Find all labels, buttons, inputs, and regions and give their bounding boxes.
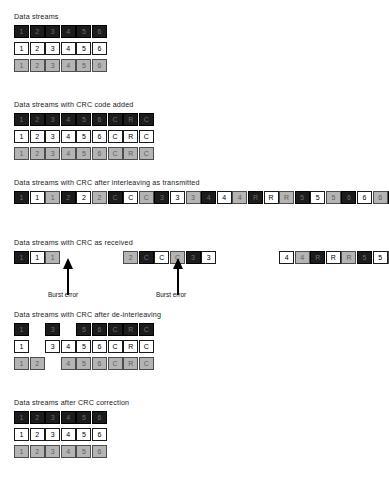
data-cell: 4 [201,191,216,204]
data-cell: 4 [61,411,76,424]
crc-cell: C [139,113,154,126]
crc-cell: C [139,130,154,143]
missing-cell [217,251,232,264]
crc-cell: R [248,191,263,204]
crc-cell: C [139,191,154,204]
data-cell: 4 [295,251,310,264]
data-cell: 1 [14,113,29,126]
data-cell: 4 [61,428,76,441]
missing-cell [61,323,76,336]
data-cell: 6 [357,191,372,204]
data-cell: 4 [61,113,76,126]
data-cell: 3 [45,59,60,72]
section-title: Data streams after CRC correction [14,398,129,407]
data-cell: 6 [92,428,107,441]
data-cell: 4 [61,340,76,353]
data-cell: 5 [76,130,91,143]
crc-cell: C [108,323,123,336]
data-cell: 6 [92,113,107,126]
data-cell: 5 [76,411,91,424]
data-cell: 1 [45,251,60,264]
data-cell: 5 [76,42,91,55]
data-cell: 3 [186,251,201,264]
data-cell: 2 [30,357,45,370]
data-cell: 1 [14,428,29,441]
data-cell: 4 [217,191,232,204]
stream-rows: 1356CRC 13456CRC 12456CRC [14,323,161,371]
section-crc-added: Data streams with CRC code added 1 2 3 4… [14,100,154,164]
missing-cell [30,323,45,336]
interleaved-row: 111222CCC333444RRR555666CCC [14,191,389,205]
table-row: 1356CRC [14,323,161,337]
data-cell: 6 [373,191,388,204]
crc-cell: R [123,357,138,370]
stream-rows: 1 2 3 4 5 6 1 2 3 4 5 6 1 2 3 4 5 6 [14,25,108,73]
missing-cell [232,251,247,264]
data-cell: 1 [14,340,29,353]
table-row: 1 2 3 4 5 6 [14,445,129,459]
data-cell: 1 [45,191,60,204]
data-cell: 6 [341,191,356,204]
data-cell: 2 [92,191,107,204]
table-row: 1 2 3 4 5 6 C R C [14,130,154,144]
data-cell: 2 [30,113,45,126]
crc-cell: C [108,191,123,204]
crc-cell: R [341,251,356,264]
data-cell: 5 [373,251,388,264]
data-cell: 4 [61,42,76,55]
data-cell: 2 [30,59,45,72]
data-cell: 1 [14,59,29,72]
data-cell: 1 [30,191,45,204]
data-cell: 5 [76,25,91,38]
data-cell: 3 [201,251,216,264]
missing-cell [108,251,123,264]
table-row: 1 2 3 4 5 6 C R C [14,147,154,161]
section-crc-corrected: Data streams after CRC correction 1 2 3 … [14,398,129,462]
crc-cell: R [279,191,294,204]
data-cell: 1 [14,445,29,458]
section-data-streams: Data streams 1 2 3 4 5 6 1 2 3 4 5 6 1 2 [14,12,108,76]
table-row: 1 2 3 4 5 6 C R C [14,113,154,127]
data-cell: 3 [186,191,201,204]
data-cell: 6 [92,357,107,370]
missing-cell [45,357,60,370]
data-cell: 5 [310,191,325,204]
table-row: 1 2 3 4 5 6 [14,59,108,73]
data-cell: 3 [45,340,60,353]
crc-cell: C [123,191,138,204]
section-de-interleaved: Data streams with CRC after de-interleav… [14,310,161,374]
crc-cell: R [123,147,138,160]
data-cell: 3 [45,113,60,126]
data-cell: 4 [232,191,247,204]
data-cell: 5 [76,340,91,353]
data-cell: 1 [14,147,29,160]
data-cell: 3 [154,191,169,204]
data-cell: 5 [357,251,372,264]
data-cell: 4 [279,251,294,264]
crc-cell: C [139,323,154,336]
table-row: 1 2 3 4 5 6 [14,411,129,425]
burst-error-label-1: Burst error [48,291,78,298]
data-cell: 5 [76,357,91,370]
data-cell: 6 [92,130,107,143]
data-cell: 1 [14,357,29,370]
crc-cell: R [123,130,138,143]
data-cell: 4 [61,147,76,160]
table-row: 12456CRC [14,357,161,371]
data-cell: 2 [30,25,45,38]
data-cell: 2 [30,147,45,160]
data-cell: 4 [61,445,76,458]
data-cell: 6 [92,411,107,424]
missing-cell [92,251,107,264]
crc-cell: C [154,251,169,264]
data-cell: 6 [92,42,107,55]
data-cell: 1 [14,251,29,264]
data-cell: 6 [92,340,107,353]
data-cell: 2 [30,411,45,424]
data-cell: 1 [14,42,29,55]
crc-cell: R [123,340,138,353]
data-cell: 1 [14,323,29,336]
data-cell: 3 [45,25,60,38]
table-row: 111222CCC333444RRR555666CCC [14,191,389,205]
data-cell: 2 [30,428,45,441]
